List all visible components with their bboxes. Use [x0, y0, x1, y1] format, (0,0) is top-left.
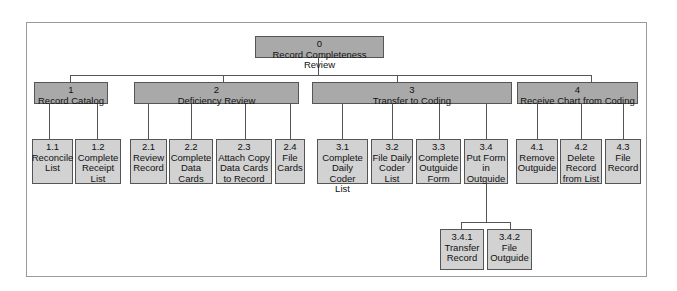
node-id: 2.1	[142, 142, 155, 153]
node-id: 3.4.1	[451, 232, 472, 243]
connector	[486, 103, 487, 139]
node-id: 2.3	[237, 142, 250, 153]
node-id: 3.4.2	[499, 232, 520, 243]
node-label: Remove Outguide	[518, 153, 557, 174]
node-label: Complete Outguide Form	[418, 153, 459, 185]
connector	[191, 103, 192, 139]
node-id: 3.3	[432, 142, 445, 153]
node-2-2: 2.2 Complete Data Cards	[169, 139, 213, 184]
node-label: Receive Chart from Coding	[520, 96, 635, 107]
node-label: Record Catalog	[38, 96, 104, 107]
node-4-3: 4.3 File Record	[605, 139, 641, 184]
node-label: Attach Copy Data Cards to Record	[218, 153, 270, 185]
node-3-4-1: 3.4.1 Transfer Record	[440, 229, 484, 270]
node-label: Review Record	[133, 153, 164, 174]
node-3-4-2: 3.4.2 File Outguide	[487, 229, 532, 270]
node-id: 4.2	[574, 142, 587, 153]
node-id: 1.2	[91, 142, 104, 153]
node-id: 1.1	[46, 142, 59, 153]
node-4-1: 4.1 Remove Outguide	[516, 139, 558, 184]
node-2-3: 2.3 Attach Copy Data Cards to Record	[216, 139, 272, 184]
node-2-1: 2.1 Review Record	[130, 139, 167, 184]
node-1-1: 1.1 Reconcile List	[32, 139, 73, 184]
node-1: 1 Record Catalog	[34, 82, 108, 104]
node-label: Put Form in Outguide	[466, 153, 505, 185]
node-id: 4.1	[530, 142, 543, 153]
connector	[510, 222, 511, 229]
connector	[581, 103, 582, 139]
connector	[49, 103, 50, 139]
node-3: 3 Transfer to Coding	[312, 82, 512, 104]
node-label: Complete Data Cards	[171, 153, 212, 185]
node-id: 2	[214, 85, 219, 96]
node-3-4: 3.4 Put Form in Outguide	[464, 139, 508, 184]
node-label: Record Completeness Review	[256, 50, 383, 71]
node-label: Deficiency Review	[178, 96, 256, 107]
node-3-1: 3.1 Complete Daily Coder List	[317, 139, 368, 184]
node-id: 4.3	[616, 142, 629, 153]
connector	[245, 103, 246, 139]
connector	[461, 222, 511, 223]
node-id: 2.2	[184, 142, 197, 153]
connector	[392, 103, 393, 139]
node-4: 4 Receive Chart from Coding	[517, 82, 638, 104]
connector	[623, 103, 624, 139]
connector	[97, 103, 98, 139]
node-0: 0 Record Completeness Review	[255, 36, 384, 58]
connector	[148, 103, 149, 139]
node-label: File Daily Coder List	[372, 153, 411, 185]
node-id: 3.4	[479, 142, 492, 153]
node-label: Transfer to Coding	[373, 96, 451, 107]
node-label: File Record	[608, 153, 639, 174]
node-label: Reconcile List	[32, 153, 74, 174]
node-2: 2 Deficiency Review	[134, 82, 299, 104]
connector	[342, 103, 343, 139]
connector	[537, 103, 538, 139]
node-label: Delete Record from List	[563, 153, 599, 185]
node-id: 3.2	[385, 142, 398, 153]
node-id: 3	[409, 85, 414, 96]
node-id: 2.4	[283, 142, 296, 153]
node-1-2: 1.2 Complete Receipt List	[75, 139, 121, 184]
connector	[439, 103, 440, 139]
node-4-2: 4.2 Delete Record from List	[560, 139, 602, 184]
connector	[461, 222, 462, 229]
node-id: 3.1	[336, 142, 349, 153]
node-3-3: 3.3 Complete Outguide Form	[416, 139, 461, 184]
node-id: 0	[317, 39, 322, 50]
node-id: 4	[575, 85, 580, 96]
connector	[70, 75, 591, 76]
node-label: Complete Receipt List	[78, 153, 119, 185]
node-label: Complete Daily Coder List	[318, 153, 367, 195]
connector	[486, 184, 487, 222]
node-label: File Cards	[277, 153, 302, 174]
node-3-2: 3.2 File Daily Coder List	[371, 139, 413, 184]
node-label: Transfer Record	[444, 243, 479, 264]
connector	[290, 103, 291, 139]
node-2-4: 2.4 File Cards	[275, 139, 305, 184]
node-id: 1	[68, 85, 73, 96]
node-label: File Outguide	[490, 243, 529, 264]
